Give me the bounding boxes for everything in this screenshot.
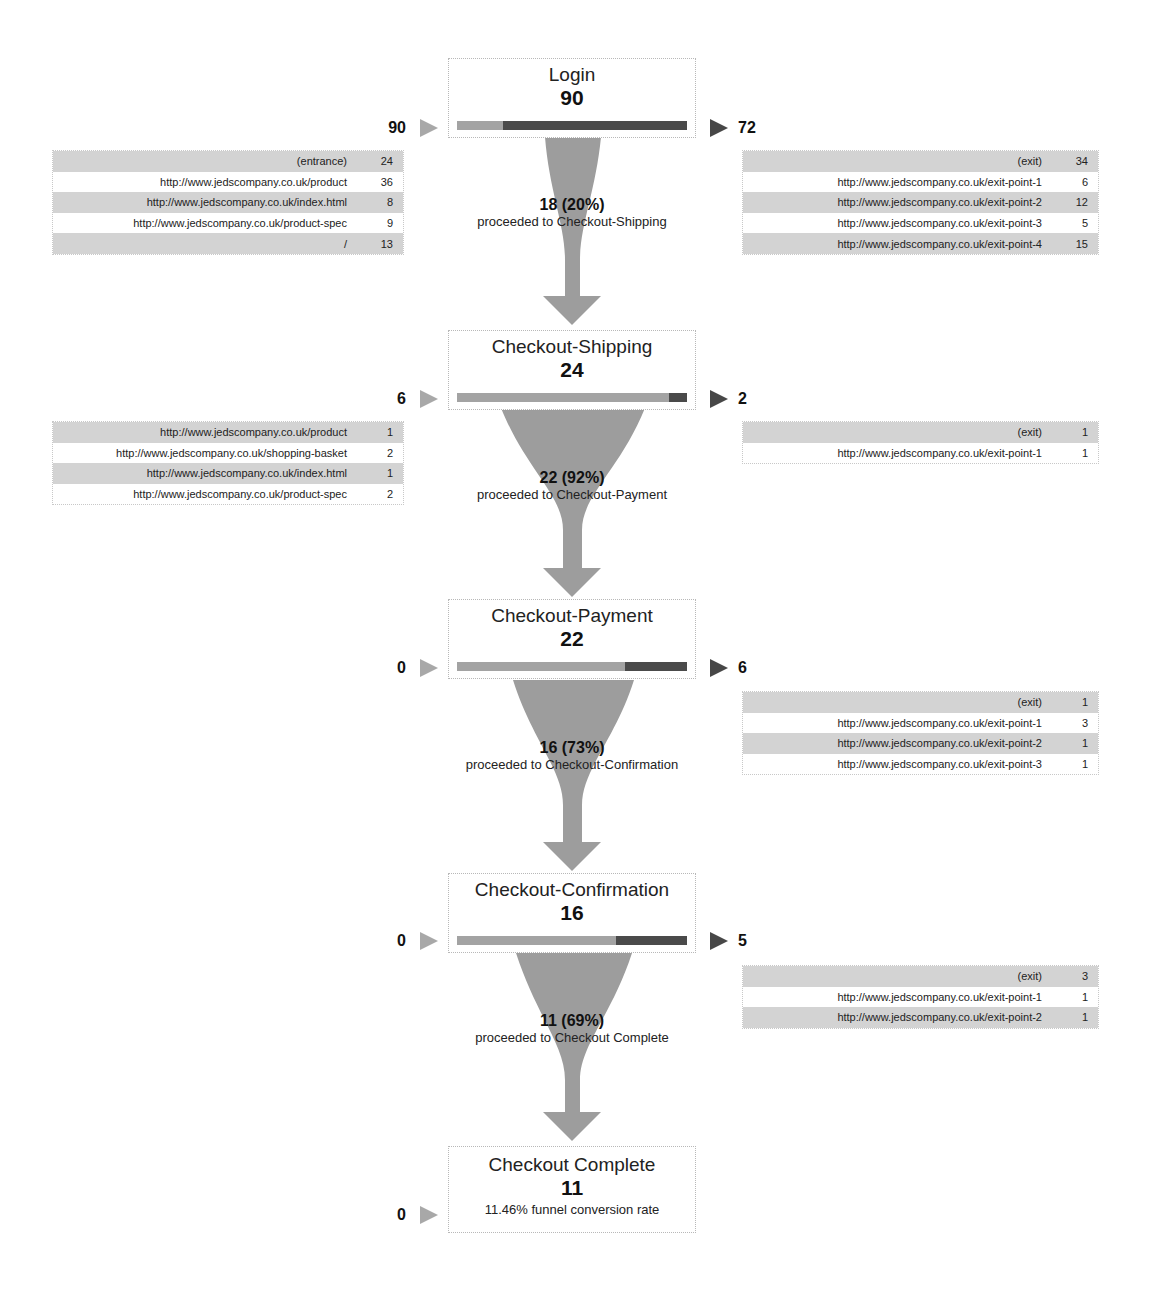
step-title: Checkout-Payment	[449, 605, 695, 627]
flow-count: 16 (73%)	[424, 739, 720, 757]
funnel-step-checkout-shipping[interactable]: Checkout-Shipping 24	[448, 330, 696, 410]
funnel-step-checkout-payment[interactable]: Checkout-Payment 22	[448, 599, 696, 679]
funnel-arrow-4	[516, 953, 632, 1141]
flow-count: 18 (20%)	[424, 196, 720, 214]
step-progress-bar	[457, 393, 687, 402]
flow-count: 11 (69%)	[424, 1012, 720, 1030]
flow-description: proceeded to Checkout-Confirmation	[424, 757, 720, 772]
flow-label: 18 (20%) proceeded to Checkout-Shipping	[424, 196, 720, 229]
flow-label: 16 (73%) proceeded to Checkout-Confirmat…	[424, 739, 720, 772]
flow-description: proceeded to Checkout-Payment	[424, 487, 720, 502]
funnel-step-checkout-confirmation[interactable]: Checkout-Confirmation 16	[448, 873, 696, 953]
step-title: Checkout Complete	[449, 1154, 695, 1176]
step-count: 24	[449, 358, 695, 382]
step-count: 22	[449, 627, 695, 651]
step-count: 90	[449, 86, 695, 110]
bar-exit	[625, 662, 687, 671]
conversion-rate: 11.46% funnel conversion rate	[449, 1202, 695, 1217]
flow-description: proceeded to Checkout Complete	[424, 1030, 720, 1045]
bar-continue	[457, 393, 669, 402]
funnel-step-checkout-complete[interactable]: Checkout Complete 11 11.46% funnel conve…	[448, 1146, 696, 1233]
step-progress-bar	[457, 662, 687, 671]
flow-label: 11 (69%) proceeded to Checkout Complete	[424, 1012, 720, 1045]
step-count: 11	[449, 1176, 695, 1200]
step-count: 16	[449, 901, 695, 925]
funnel-arrow-2	[501, 408, 645, 597]
bar-exit	[616, 936, 687, 945]
bar-exit	[503, 121, 687, 130]
flow-label: 22 (92%) proceeded to Checkout-Payment	[424, 469, 720, 502]
step-title: Login	[449, 64, 695, 86]
bar-continue	[457, 121, 503, 130]
bar-continue	[457, 662, 625, 671]
bar-exit	[669, 393, 687, 402]
funnel-arrow-1	[543, 137, 601, 325]
step-title: Checkout-Confirmation	[449, 879, 695, 901]
funnel-arrow-3	[513, 680, 634, 871]
flow-description: proceeded to Checkout-Shipping	[424, 214, 720, 229]
bar-continue	[457, 936, 616, 945]
step-title: Checkout-Shipping	[449, 336, 695, 358]
step-progress-bar	[457, 936, 687, 945]
step-progress-bar	[457, 121, 687, 130]
flow-count: 22 (92%)	[424, 469, 720, 487]
funnel-step-login[interactable]: Login 90	[448, 58, 696, 138]
